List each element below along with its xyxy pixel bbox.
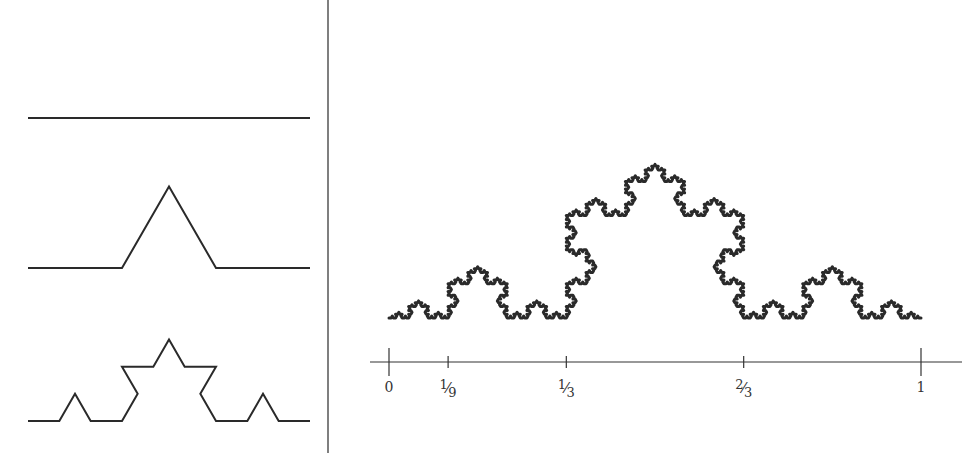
tick-label: 0: [385, 379, 394, 395]
tick-label: 1⁄9: [440, 379, 457, 397]
construction-stages: [28, 118, 310, 421]
koch-stage-1: [28, 187, 310, 268]
tick-label: 1⁄3: [558, 379, 575, 397]
tick-label: 2⁄3: [735, 379, 752, 397]
koch-diagram: [0, 0, 975, 471]
koch-stage-2: [28, 340, 310, 421]
koch-curve: [389, 164, 921, 318]
tick-label: 1: [917, 379, 926, 395]
